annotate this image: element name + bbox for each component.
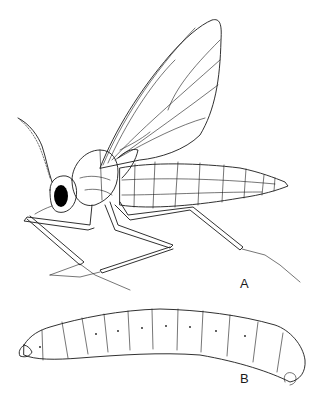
panel-label-b: B — [240, 372, 249, 385]
larva-drawing — [0, 0, 323, 397]
insect-illustration-figure: A B — [0, 0, 323, 397]
larva-head-capsule — [19, 345, 32, 357]
spiracles — [39, 325, 246, 348]
panel-label-a: A — [240, 277, 249, 290]
larva-body — [19, 309, 305, 385]
